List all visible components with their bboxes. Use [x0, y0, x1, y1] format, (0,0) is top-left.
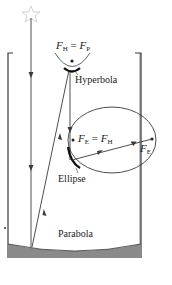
reflected-ray-hyperbola: [68, 72, 73, 160]
hyperbola-focus-label: FH = FP: [56, 40, 90, 53]
ellipse-right-focus-label: FE: [140, 143, 151, 156]
parabola-label: Parabola: [58, 229, 93, 239]
ellipse-focus-label: FE = FH: [78, 133, 113, 146]
stray-dot: [4, 227, 6, 229]
hyperbola-label: Hyperbola: [75, 75, 117, 85]
ellipse-focus-left: [72, 139, 75, 142]
hyperbola-focus-point: [70, 59, 73, 62]
ellipse-label: Ellipse: [58, 174, 86, 184]
reflected-ray-parabola: [32, 70, 69, 247]
parabola-mirror: [8, 244, 141, 258]
hyperbola-mirror: [64, 68, 80, 72]
incoming-light-ray: [29, 18, 34, 247]
